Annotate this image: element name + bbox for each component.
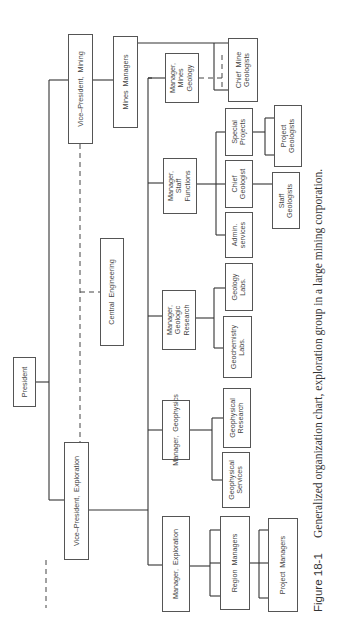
caption-text: Generalized organization chart, explorat…: [312, 169, 324, 538]
node-label: Geochemistry Labs.: [229, 325, 246, 369]
node-manager-exploration: Manager, Exploration: [162, 516, 190, 612]
node-label: Vice–President, Mining: [76, 51, 84, 126]
node-chief-geologist: Chief Geologist: [225, 160, 253, 208]
node-project-managers: Project Managers: [268, 518, 298, 612]
node-label: Geophysical Research: [229, 398, 246, 438]
node-label: Manager, Exploration: [172, 529, 180, 599]
node-label: Manager, Mines Geology: [169, 63, 194, 93]
node-label: Geology Labs.: [231, 274, 248, 301]
node-label: Manager, Geologic Research: [166, 305, 191, 336]
node-admin-services: Admin. services: [225, 212, 253, 258]
node-vp-exploration: Vice–President, Exploration: [64, 442, 89, 560]
node-manager-staff-functions: Manager, Staff Functions: [163, 158, 197, 214]
node-label: Manager, Staff Functions: [167, 170, 192, 201]
node-geophysical-research: Geophysical Research: [223, 388, 251, 448]
node-special-projects: Special Projects: [225, 108, 253, 156]
node-president: President: [13, 357, 36, 407]
node-label: Manager, Geophysics: [172, 394, 180, 466]
node-label: Vice–President, Exploration: [72, 456, 80, 546]
node-label: Admin. services: [231, 222, 248, 248]
node-label: Central Engineering: [108, 259, 116, 325]
node-label: President: [20, 367, 28, 397]
node-label: Geophysical Services: [228, 460, 245, 500]
node-manager-geophysics: Manager, Geophysics: [162, 400, 190, 460]
node-label: Special Projects: [231, 119, 248, 145]
node-label: Chief Geologist: [231, 169, 248, 199]
figure-number: Figure 18-1: [312, 553, 324, 612]
node-label: Staff Geologists: [278, 184, 295, 218]
node-label: Project Geologists: [280, 119, 297, 153]
node-region-managers: Region Managers: [220, 516, 250, 610]
node-geochemistry-labs: Geochemistry Labs.: [223, 316, 252, 378]
node-geophysical-services: Geophysical Services: [222, 452, 250, 508]
node-central-engineering: Central Engineering: [100, 238, 124, 346]
node-manager-geologic-research: Manager, Geologic Research: [162, 290, 196, 350]
node-label: Region Managers: [231, 534, 239, 593]
figure-caption: Figure 18-1 Generalized organization cha…: [312, 169, 324, 612]
node-staff-geologists: Staff Geologists: [272, 172, 300, 229]
node-chief-mine-geologists: Chief Mine Geologists: [228, 38, 258, 102]
node-label: Project Managers: [279, 536, 287, 594]
node-vp-mining: Vice–President, Mining: [68, 34, 93, 144]
node-manager-mines-geology: Manager, Mines Geology: [165, 53, 199, 103]
node-project-geologists: Project Geologists: [274, 105, 302, 167]
node-label: Mines Managers: [121, 54, 129, 109]
node-mines-managers: Mines Managers: [113, 36, 138, 128]
node-geology-labs: Geology Labs.: [225, 263, 253, 311]
node-label: Chief Mine Geologists: [235, 52, 252, 88]
